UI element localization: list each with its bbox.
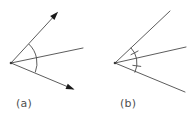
panel-a-lower-ray	[11, 63, 73, 89]
panel-b-lower-arc-tick	[133, 65, 141, 66]
panel-b-upper-ray	[115, 11, 170, 63]
panel-a-upper-arc	[29, 44, 37, 58]
panel-a-lower-arc	[35, 58, 37, 72]
panel-b-middle-ray	[115, 47, 186, 63]
figure-container: (a) (b)	[0, 0, 193, 120]
panel-b-vertex-point	[114, 62, 117, 65]
panel-b-rays	[115, 11, 186, 92]
geometry-figure: (a) (b)	[0, 0, 193, 120]
panel-b-upper-arc-tick	[131, 51, 138, 55]
panel-a: (a)	[10, 12, 83, 110]
panel-a-label: (a)	[16, 97, 32, 110]
panel-a-rays	[11, 13, 83, 89]
panel-a-lower-arrowhead	[66, 84, 75, 90]
panel-b-label: (b)	[120, 97, 136, 110]
panel-a-upper-ray	[11, 13, 57, 63]
panel-b: (b)	[114, 11, 186, 110]
panel-a-vertex-point	[10, 62, 13, 65]
panel-a-middle-ray	[11, 48, 83, 63]
panel-b-arcs	[131, 48, 137, 73]
panel-b-lower-ray	[115, 63, 185, 92]
